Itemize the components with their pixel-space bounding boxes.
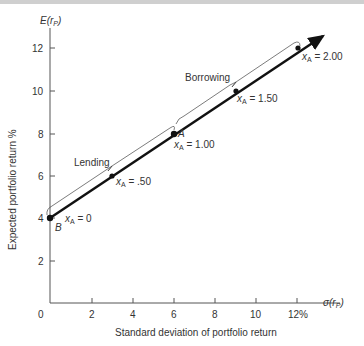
x-tick-label: 12% [288, 309, 308, 320]
y-tick-label: 8 [38, 129, 44, 140]
borrowing-bracket [176, 42, 300, 124]
point-name-a: A [177, 128, 185, 139]
point-label: xA = 2.00 [301, 51, 343, 63]
y-tick-labels: 2 4 6 8 10 12 [32, 43, 44, 267]
y-tick-label: 2 [38, 256, 44, 267]
y-axis-symbol: E(rP) [40, 15, 61, 27]
x-tick-label: 0 [38, 309, 44, 320]
chart-canvas: 2 4 6 8 10 12 0 2 4 6 8 10 12% E(rP) σ(r… [0, 0, 364, 346]
point-b [47, 215, 53, 221]
y-tick-label: 10 [32, 86, 44, 97]
x-tick-label: 2 [89, 309, 95, 320]
x-ticks [92, 298, 297, 303]
x-tick-labels: 0 2 4 6 8 10 12% [38, 309, 308, 320]
point-label: xA = 0 [64, 213, 92, 225]
y-tick-label: 4 [38, 213, 44, 224]
x-tick-label: 6 [171, 309, 177, 320]
point-label: xA = 1.50 [236, 93, 278, 105]
point-a [171, 131, 177, 137]
point-label: xA = 1.00 [173, 139, 215, 151]
x-axis-symbol: σ(rP) [323, 297, 344, 309]
point-x-050 [109, 173, 114, 178]
x-axis-title: Standard deviation of portfolio return [115, 327, 277, 338]
capital-allocation-line [50, 36, 323, 218]
point-label: xA = .50 [115, 176, 151, 188]
point-name-b: B [55, 222, 62, 233]
x-tick-label: 8 [212, 309, 218, 320]
y-tick-label: 12 [32, 43, 44, 54]
point-x-200 [295, 45, 300, 50]
y-tick-label: 6 [38, 171, 44, 182]
x-tick-label: 4 [130, 309, 136, 320]
lending-label: Lending [74, 157, 110, 168]
y-axis-title: Expected portfolio return % [7, 129, 18, 250]
borrowing-label: Borrowing [185, 72, 230, 83]
x-tick-label: 10 [250, 309, 262, 320]
lending-bracket [47, 126, 175, 215]
